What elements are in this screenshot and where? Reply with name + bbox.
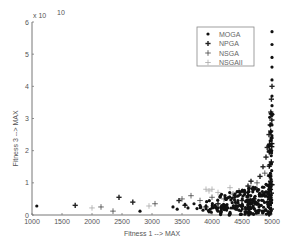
data-point [209,195,215,201]
data-point [247,213,250,216]
x-tick-label: 1500 [54,218,70,225]
data-point [269,84,274,89]
data-point [138,210,141,213]
data-point [246,195,249,198]
data-point [261,211,264,214]
data-point [225,198,228,201]
data-point [262,170,268,176]
data-point [270,201,273,204]
data-point [262,192,265,195]
x-axis-label: Fitness 1 --> MAX [124,230,181,237]
data-point [197,198,203,204]
data-point [268,197,271,200]
x-tick-label: 4500 [234,218,250,225]
data-point [241,197,244,200]
data-point [260,199,263,202]
data-point [270,169,273,172]
data-point [243,213,246,216]
data-point [258,193,261,196]
data-point [270,30,273,33]
data-point [171,205,174,208]
data-point [257,174,262,179]
data-point [251,187,254,190]
data-point [270,43,273,46]
data-point [208,199,211,202]
y-tick-label: 6 [25,19,29,26]
data-point [207,209,210,212]
data-point [269,131,272,134]
x-tick-label: 3000 [144,218,160,225]
data-point [152,201,158,207]
data-point [176,208,179,211]
data-point [256,189,259,192]
data-point [234,201,237,204]
data-point [254,180,260,186]
data-point [253,197,256,200]
data-point [270,65,273,68]
data-point [146,203,152,209]
data-point [98,204,104,210]
data-point [248,179,253,184]
y-tick-label: 3 [25,115,29,122]
data-point [239,209,242,212]
data-point [219,210,222,213]
legend-label-moga: MOGA [219,31,241,38]
y-tick-label: 5 [25,51,29,58]
data-point [261,186,264,189]
data-point [248,187,251,190]
data-point [188,193,194,199]
data-point [201,209,204,212]
x-tick-label: 1000 [24,218,40,225]
data-point [231,201,234,204]
data-point [270,104,273,107]
data-point [254,209,257,212]
data-point [238,204,241,207]
data-point [249,194,252,197]
data-point [270,56,273,59]
data-point [199,206,202,209]
x-tick-label: 4000 [204,218,220,225]
data-point [204,204,207,207]
data-point [210,211,213,214]
data-point [270,94,273,97]
x-tick-label: 2000 [84,218,100,225]
data-point [130,200,135,205]
data-point [247,190,250,193]
y-multiplier-label: x 10 [33,12,46,19]
data-point [239,193,242,196]
data-point [216,208,219,211]
data-point [227,185,233,191]
data-point [234,208,237,211]
data-point [263,155,268,160]
data-point [110,208,116,214]
data-point [192,202,195,205]
data-point [228,195,231,198]
data-point [243,193,246,196]
legend-label-npga: NPGA [219,40,239,47]
legend-label-nsga: NSGA [219,50,239,57]
data-point [229,206,232,209]
data-point [223,194,226,197]
legend-label-nsgaii: NSGAII [219,59,243,66]
data-point [246,199,249,202]
x-tick-label: 2500 [114,218,130,225]
data-point [270,139,273,142]
data-point [216,199,219,202]
y-axis-label: Fitness 3 --> MAX [12,110,19,167]
data-point [183,203,186,206]
data-point [264,183,267,186]
x-tick-label: 5000 [264,218,280,225]
data-point [258,208,261,211]
data-point [228,191,231,194]
data-point [240,213,243,216]
x-tick-label: 3500 [174,218,190,225]
data-point [116,195,121,200]
data-point [269,172,272,175]
data-point [238,190,241,193]
data-point [89,205,95,211]
data-point [244,206,247,209]
scatter-chart: 1000150020002500300035004000450050000123… [0,0,293,246]
data-point [195,207,198,210]
data-point [73,203,78,208]
data-point [226,206,229,209]
